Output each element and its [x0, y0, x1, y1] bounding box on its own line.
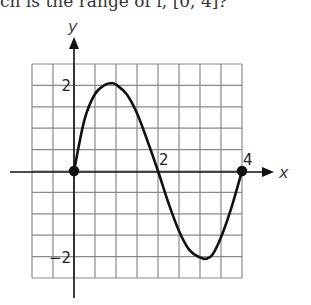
function-graph: x y 242−2	[0, 0, 311, 305]
endpoint-dot	[238, 167, 247, 176]
x-tick-label: 4	[243, 151, 253, 169]
grid	[32, 64, 242, 278]
x-axis-arrow-icon	[262, 167, 274, 177]
y-tick-label: 2	[61, 77, 71, 95]
y-tick-label: −2	[49, 249, 71, 267]
y-axis-arrow-icon	[69, 37, 79, 49]
y-axis-label: y	[67, 17, 78, 36]
x-tick-label: 2	[159, 151, 169, 169]
x-axis-label: x	[278, 163, 289, 182]
endpoint-dot	[70, 167, 79, 176]
